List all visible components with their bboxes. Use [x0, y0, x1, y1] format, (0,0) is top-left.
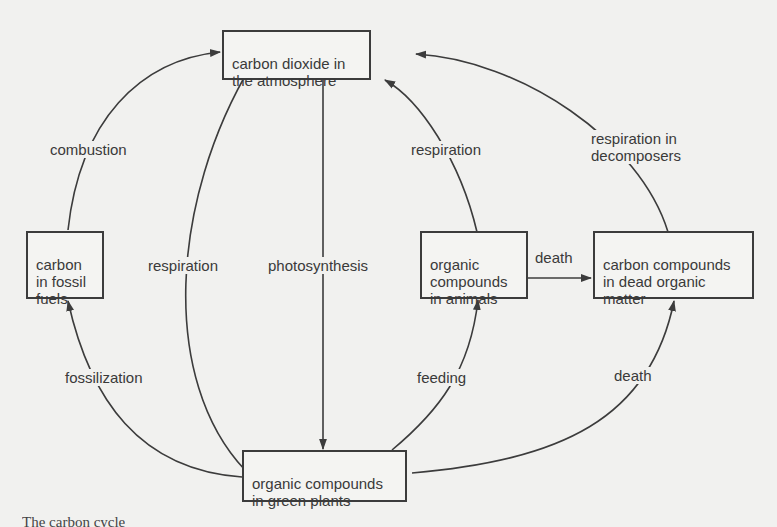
edge-label-respiration-decomposers: respiration in decomposers [589, 130, 683, 164]
node-dead-organic-matter: carbon compounds in dead organic matter [593, 231, 754, 299]
carbon-cycle-diagram: carbon dioxide in the atmosphere carbon … [0, 0, 777, 527]
node-animals-label: organic compounds in animals [430, 256, 508, 307]
edge-label-respiration-plants: respiration [146, 257, 220, 274]
edge-label-fossilization: fossilization [63, 369, 145, 386]
edge-label-respiration-animals: respiration [409, 141, 483, 158]
arrow-fossilization [68, 301, 242, 477]
figure-caption: The carbon cycle [22, 514, 125, 527]
edge-label-combustion: combustion [48, 141, 129, 158]
edge-label-feeding: feeding [415, 369, 468, 386]
node-animals: organic compounds in animals [420, 231, 528, 299]
node-green-plants: organic compounds in green plants [242, 450, 407, 502]
arrow-death-plants [412, 301, 674, 473]
node-fossil-fuels: carbon in fossil fuels [26, 231, 104, 299]
edge-label-death-animals: death [533, 249, 575, 266]
node-atmosphere-label: carbon dioxide in the atmosphere [232, 55, 345, 89]
edge-label-death-plants: death [612, 367, 654, 384]
edge-label-photosynthesis: photosynthesis [266, 257, 370, 274]
node-atmosphere: carbon dioxide in the atmosphere [222, 30, 371, 80]
